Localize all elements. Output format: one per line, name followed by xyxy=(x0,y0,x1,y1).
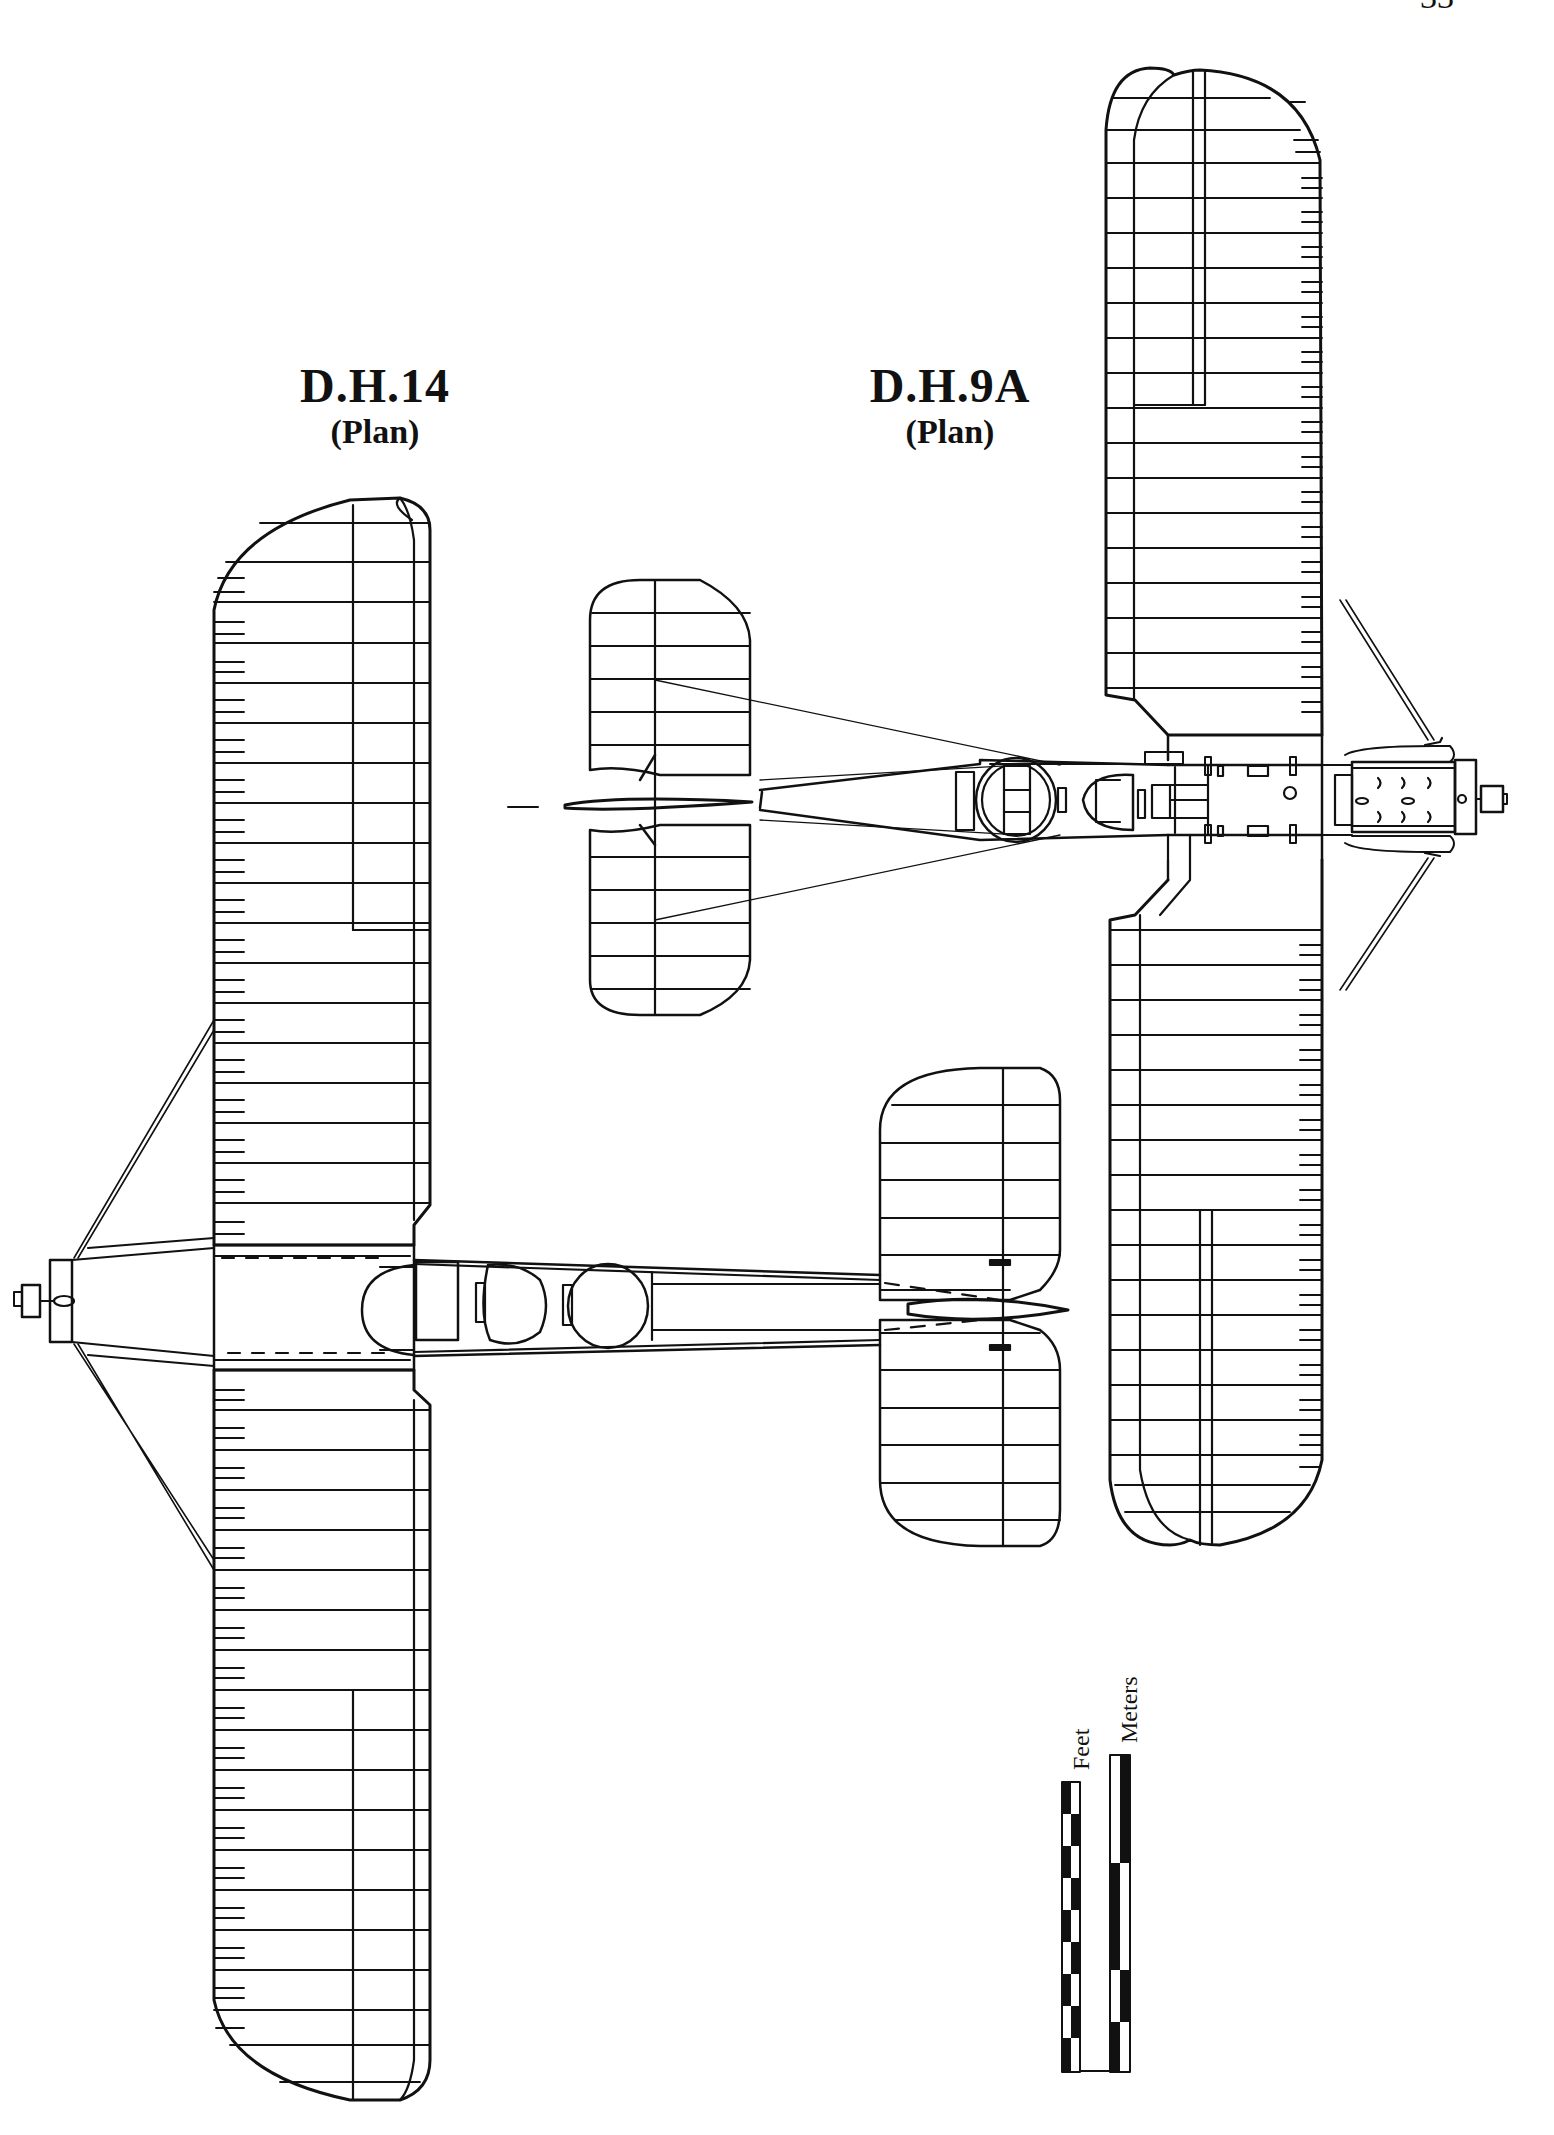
feet-scale xyxy=(1062,1782,1080,2072)
dh14-centre-section xyxy=(214,1245,414,1370)
dh9a-lower-wing xyxy=(1110,835,1322,1545)
meters-scale xyxy=(1110,1755,1130,2072)
dh14-plan-drawing xyxy=(14,498,1068,2100)
dh9a-upper-wing xyxy=(1106,68,1322,735)
dh9a-fuselage xyxy=(760,758,1168,842)
scale-bar xyxy=(1062,1755,1130,2072)
dh14-upper-wing xyxy=(214,498,430,1245)
meters-label: Meters xyxy=(1116,1676,1143,1743)
dh9a-plan-drawing xyxy=(508,68,1507,1545)
drawing-canvas xyxy=(0,0,1554,2135)
dh14-tailplane xyxy=(880,1068,1068,1546)
dh14-fuselage xyxy=(362,1260,880,1356)
dh14-lower-wing xyxy=(214,1370,430,2100)
feet-label: Feet xyxy=(1068,1729,1095,1770)
dh9a-engine xyxy=(1322,600,1507,990)
dh9a-centre-section xyxy=(1145,735,1322,880)
dh14-nose xyxy=(14,1020,214,1570)
